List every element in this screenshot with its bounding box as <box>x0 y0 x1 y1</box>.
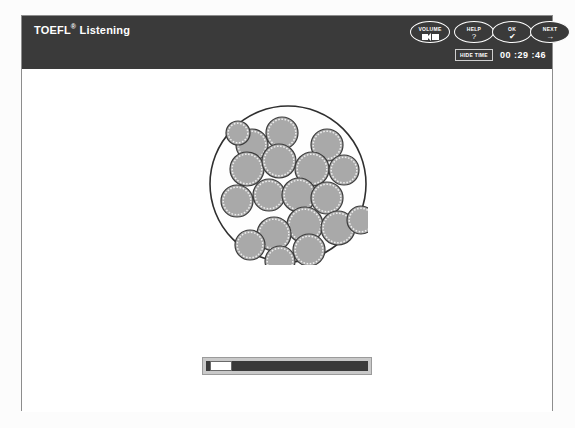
toefl-test-window: TOEFL® Listening VOLUME HELP ? OK ✔ <box>21 15 553 411</box>
cell <box>262 144 296 178</box>
scanned-page-background: TOEFL® Listening VOLUME HELP ? OK ✔ <box>0 0 575 428</box>
checkmark-icon: ✔ <box>493 33 531 41</box>
cell <box>230 152 264 186</box>
cell <box>293 234 325 265</box>
header-bar: TOEFL® Listening VOLUME HELP ? OK ✔ <box>22 16 552 69</box>
audio-progress-track <box>206 361 368 371</box>
cell <box>329 155 359 185</box>
cell <box>235 230 265 260</box>
page-title-brand: TOEFL <box>34 24 71 36</box>
audio-progress-thumb[interactable] <box>210 361 232 371</box>
hide-time-button[interactable]: HIDE TIME <box>455 49 493 61</box>
page-title-section: Listening <box>79 24 130 36</box>
audio-progress-bar[interactable] <box>202 357 372 375</box>
arrow-right-icon: → <box>531 33 569 41</box>
question-mark-icon: ? <box>455 33 493 41</box>
cell <box>221 185 253 217</box>
cell <box>253 179 285 211</box>
cell <box>226 121 250 145</box>
help-button[interactable]: HELP ? <box>454 21 494 43</box>
ok-button[interactable]: OK ✔ <box>492 21 532 43</box>
cells-svg <box>208 103 368 265</box>
next-button[interactable]: NEXT → <box>530 21 570 43</box>
content-area <box>22 69 552 412</box>
petri-dish-cells-diagram <box>208 103 368 265</box>
registered-trademark-icon: ® <box>71 23 76 30</box>
countdown-clock: 00 :29 :46 <box>500 50 546 60</box>
page-title: TOEFL® Listening <box>34 23 130 36</box>
cell <box>311 182 343 214</box>
volume-button-label: VOLUME <box>411 25 449 33</box>
speaker-icon <box>411 33 449 41</box>
timer-strip: HIDE TIME 00 :29 :46 <box>455 47 552 63</box>
volume-button[interactable]: VOLUME <box>410 21 450 43</box>
